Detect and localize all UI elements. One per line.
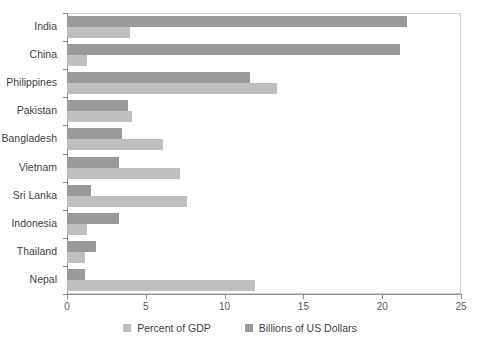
legend-label: Percent of GDP	[137, 322, 211, 334]
y-tick	[63, 125, 67, 126]
x-tick	[225, 295, 226, 299]
x-tick-label: 15	[298, 301, 309, 312]
category-label-thailand: Thailand	[0, 245, 63, 257]
legend-label: Billions of US Dollars	[259, 322, 357, 334]
bar-dollars-vietnam	[67, 157, 119, 168]
legend-item: Percent of GDP	[123, 322, 211, 334]
bar-dollars-philippines	[67, 72, 250, 83]
bar-gdp-nepal	[67, 280, 255, 291]
legend-item: Billions of US Dollars	[245, 322, 357, 334]
x-tick	[67, 295, 68, 299]
category-label-vietnam: Vietnam	[0, 161, 63, 173]
y-tick	[63, 97, 67, 98]
y-tick	[63, 238, 67, 239]
bar-gdp-bangladesh	[67, 139, 163, 150]
bar-dollars-china	[67, 44, 400, 55]
y-tick	[63, 69, 67, 70]
bar-gdp-india	[67, 27, 130, 38]
legend-swatch-icon	[123, 324, 131, 332]
category-label-philippines: Philippines	[0, 76, 63, 88]
bar-gdp-pakistan	[67, 111, 132, 122]
x-tick	[303, 295, 304, 299]
category-label-sri-lanka: Sri Lanka	[0, 189, 63, 201]
y-tick	[63, 41, 67, 42]
bar-dollars-sri-lanka	[67, 185, 91, 196]
y-tick	[63, 13, 67, 14]
x-tick-label: 20	[377, 301, 388, 312]
bar-chart: IndiaChinaPhilippinesPakistanBangladeshV…	[0, 0, 480, 347]
category-label-nepal: Nepal	[0, 273, 63, 285]
bar-dollars-bangladesh	[67, 128, 122, 139]
x-tick-label: 25	[455, 301, 466, 312]
y-tick	[63, 154, 67, 155]
x-tick	[461, 295, 462, 299]
bar-dollars-pakistan	[67, 100, 128, 111]
chart-legend: Percent of GDPBillions of US Dollars	[0, 322, 480, 334]
category-label-china: China	[0, 48, 63, 60]
bar-dollars-india	[67, 16, 407, 27]
y-tick	[63, 266, 67, 267]
x-tick-label: 10	[219, 301, 230, 312]
bar-gdp-vietnam	[67, 168, 180, 179]
x-axis-line	[67, 294, 462, 295]
category-label-bangladesh: Bangladesh	[0, 132, 63, 144]
bar-gdp-philippines	[67, 83, 277, 94]
category-label-india: India	[0, 20, 63, 32]
bar-gdp-sri-lanka	[67, 196, 187, 207]
category-label-indonesia: Indonesia	[0, 217, 63, 229]
x-tick	[382, 295, 383, 299]
bar-gdp-thailand	[67, 252, 85, 263]
bar-gdp-china	[67, 55, 87, 66]
bar-dollars-thailand	[67, 241, 96, 252]
x-tick	[146, 295, 147, 299]
bar-gdp-indonesia	[67, 224, 87, 235]
bar-dollars-nepal	[67, 269, 85, 280]
category-label-pakistan: Pakistan	[0, 104, 63, 116]
bar-dollars-indonesia	[67, 213, 119, 224]
x-tick-label: 0	[64, 301, 70, 312]
y-tick	[63, 182, 67, 183]
x-tick-label: 5	[143, 301, 149, 312]
y-tick	[63, 210, 67, 211]
plot-area-frame	[67, 13, 461, 294]
legend-swatch-icon	[245, 324, 253, 332]
